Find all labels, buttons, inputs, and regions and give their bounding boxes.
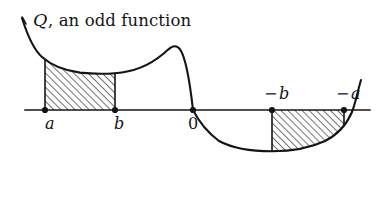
point-a — [42, 107, 48, 113]
axis-label-a: a — [45, 116, 55, 132]
caption-symbol-Q: Q — [33, 10, 48, 30]
shaded-region-a-to-b — [40, 50, 125, 116]
figure-odd-function: Q, an odd function a b 0 −b −a — [0, 0, 382, 206]
caption-text: , an odd function — [48, 11, 191, 30]
minus-sign-b: − — [264, 84, 279, 103]
axis-label-neg-a-var: a — [351, 84, 361, 103]
axis-label-neg-b-var: b — [279, 84, 289, 103]
point-neg-a — [341, 107, 347, 113]
point-zero — [190, 107, 196, 113]
figure-caption: Q, an odd function — [33, 12, 191, 30]
axis-label-neg-a: −a — [336, 86, 360, 102]
figure-canvas — [0, 0, 382, 206]
axis-label-b: b — [114, 116, 124, 132]
axis-label-zero: 0 — [188, 116, 198, 132]
point-b — [112, 107, 118, 113]
minus-sign-a: − — [336, 84, 351, 103]
axis-label-neg-b: −b — [264, 86, 289, 102]
point-neg-b — [269, 107, 275, 113]
